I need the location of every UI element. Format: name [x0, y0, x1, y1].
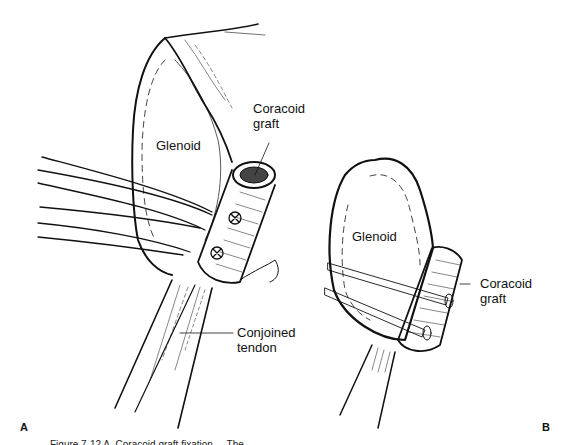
panel-letter-a: A — [20, 421, 28, 433]
illustration — [0, 0, 567, 445]
panel-a-drawing — [38, 24, 278, 428]
label-coracoid-graft-a-line1: Coracoid — [253, 101, 305, 116]
figure-caption-truncated: Figure 7-12 A, Coracoid graft fixation .… — [50, 438, 244, 445]
label-glenoid-a: Glenoid — [156, 138, 201, 153]
label-coracoid-graft-b-line2: graft — [480, 291, 532, 306]
screw-b — [325, 263, 448, 337]
label-conjoined-tendon: Conjoined tendon — [237, 325, 296, 355]
label-conjoined-tendon-line2: tendon — [237, 340, 296, 355]
label-conjoined-tendon-line1: Conjoined — [237, 325, 296, 340]
glenoid-b-outline — [330, 159, 433, 340]
label-coracoid-graft-b: Coracoid graft — [480, 276, 532, 306]
label-coracoid-graft-a: Coracoid graft — [253, 101, 305, 131]
label-coracoid-graft-a-line2: graft — [253, 116, 305, 131]
screw-icon — [211, 212, 241, 259]
panel-b-drawing — [325, 159, 470, 428]
glenoid-a-outline — [132, 38, 172, 275]
label-coracoid-graft-b-line1: Coracoid — [480, 276, 532, 291]
conjoined-tendon — [115, 280, 172, 408]
panel-letter-b: B — [542, 421, 550, 433]
label-glenoid-b: Glenoid — [352, 229, 397, 244]
